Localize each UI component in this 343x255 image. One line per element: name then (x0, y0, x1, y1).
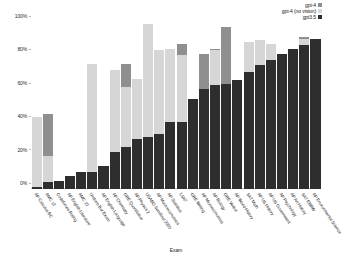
y-axis-tick-label: 60% (17, 80, 27, 86)
legend-swatch-gpt3-5 (318, 15, 322, 19)
x-axis-label-slot: AP Microeconomics (198, 190, 209, 252)
bar-segment-gpt-4 (177, 44, 187, 56)
y-axis-tick: 60% (17, 80, 31, 86)
bar-segment-gpt-4 (121, 64, 131, 87)
x-axis-label-slot: AMC 10 (76, 190, 87, 252)
bar-segment-gpt-4-no-vision (299, 39, 309, 46)
bar-segment-gpt-4-no-vision (32, 117, 42, 187)
bar-column[interactable] (177, 22, 187, 189)
x-axis-label-slot: SAT Math (243, 190, 254, 252)
y-axis-tick: 80% (17, 46, 31, 52)
x-axis-label-slot: AP US History (254, 190, 265, 252)
bar-segment-gpt3-5 (32, 187, 42, 189)
bar-segment-gpt3-5 (288, 49, 298, 189)
bar-column[interactable] (143, 22, 153, 189)
legend-entry-gpt3-5[interactable]: gpt3.5 (303, 14, 322, 20)
x-axis-label-slot: SAT EBRW (299, 190, 310, 252)
bar-segment-gpt-4-no-vision (43, 156, 53, 183)
bar-segment-gpt3-5 (143, 137, 153, 189)
bar-segment-gpt-4-no-vision (143, 24, 153, 138)
bar-segment-gpt3-5 (54, 181, 64, 189)
x-axis-label-slot: Uniform Bar Exam (87, 190, 98, 252)
bar-segment-gpt-4-no-vision (255, 40, 265, 65)
x-axis-label-slot: AP Psychology (276, 190, 287, 252)
bar-segment-gpt-4-no-vision (132, 79, 142, 139)
bar-segment-gpt3-5 (43, 182, 53, 189)
bar-segment-gpt3-5 (310, 39, 320, 189)
bar-segment-gpt3-5 (98, 166, 108, 189)
bar-segment-gpt-4-no-vision (165, 49, 175, 122)
x-axis-label-slot: GRE Writing (187, 190, 198, 252)
bar-column[interactable] (255, 22, 265, 189)
x-axis-label-slot: AP Calculus BC (31, 190, 42, 252)
x-axis-label: AP Environmental Science (312, 192, 343, 235)
bar-segment-gpt3-5 (110, 152, 120, 189)
bar-segment-gpt-4-no-vision (87, 64, 97, 173)
bar-segment-gpt3-5 (165, 122, 175, 189)
bar-segment-gpt-4-no-vision (110, 70, 120, 152)
x-axis-label-slot: AP Biology (210, 190, 221, 252)
bar-column[interactable] (121, 22, 131, 189)
legend-swatch-gpt-4-no-vision (318, 9, 322, 13)
y-axis-tick-label: 0% (20, 180, 27, 186)
bar-segment-gpt3-5 (65, 176, 75, 189)
bar-column[interactable] (132, 22, 142, 189)
bar-segment-gpt-4 (43, 114, 53, 156)
bar-column[interactable] (76, 22, 86, 189)
bar-column[interactable] (199, 22, 209, 189)
x-axis-label-slot: AMC 12 (42, 190, 53, 252)
y-axis-tick: 100% (15, 13, 31, 19)
bar-segment-gpt3-5 (154, 134, 164, 189)
bar-column[interactable] (288, 22, 298, 189)
x-axis-label-slot: AP Art History (288, 190, 299, 252)
bar-column[interactable] (154, 22, 164, 189)
bar-segment-gpt3-5 (188, 99, 198, 189)
bar-segment-gpt-4-no-vision (154, 50, 164, 134)
x-axis-label-slot: GRE Quantitative (120, 190, 131, 252)
bar-segment-gpt-4-no-vision (266, 44, 276, 61)
bar-column[interactable] (32, 22, 42, 189)
bar-segment-gpt-4 (199, 54, 209, 89)
bar-column[interactable] (232, 22, 242, 189)
bar-segment-gpt-4-no-vision (244, 42, 254, 72)
bar-segment-gpt3-5 (221, 84, 231, 189)
bar-column[interactable] (310, 22, 320, 189)
x-axis-label-slot: AP English Language (98, 190, 109, 252)
x-axis-label-slot: Codeforces Rating (53, 190, 64, 252)
bar-column[interactable] (266, 22, 276, 189)
y-axis-tick-mark (29, 16, 31, 17)
x-axis-labels: AP Calculus BCAMC 12Codeforces RatingAP … (31, 190, 321, 252)
bar-segment-gpt3-5 (121, 147, 131, 189)
bar-column[interactable] (188, 22, 198, 189)
bar-segment-gpt3-5 (244, 72, 254, 189)
bar-segment-gpt3-5 (132, 139, 142, 189)
bar-column[interactable] (221, 22, 231, 189)
bar-column[interactable] (299, 22, 309, 189)
bar-column[interactable] (87, 22, 97, 189)
bar-column[interactable] (110, 22, 120, 189)
bar-column[interactable] (43, 22, 53, 189)
x-axis-label-slot: AP US Government (265, 190, 276, 252)
x-axis-label-slot: AP World History (232, 190, 243, 252)
x-axis-label-slot: AP English Literature (64, 190, 75, 252)
y-axis-tick: 20% (17, 147, 31, 153)
x-axis-title: Exam (31, 247, 321, 253)
bar-column[interactable] (65, 22, 75, 189)
legend-label-gpt3-5: gpt3.5 (303, 14, 316, 20)
bar-column[interactable] (54, 22, 64, 189)
bar-group (31, 22, 321, 189)
x-axis-label-slot: AP Physics 2 (131, 190, 142, 252)
bar-column[interactable] (98, 22, 108, 189)
bar-segment-gpt3-5 (76, 172, 86, 189)
bar-segment-gpt3-5 (210, 85, 220, 189)
y-axis-tick-label: 40% (17, 113, 27, 119)
x-axis-label-slot: LSAT (176, 190, 187, 252)
bar-segment-gpt3-5 (199, 89, 209, 189)
bar-column[interactable] (277, 22, 287, 189)
bar-column[interactable] (244, 22, 254, 189)
bar-column[interactable] (210, 22, 220, 189)
bar-segment-gpt3-5 (266, 60, 276, 189)
y-axis-tick-label: 80% (17, 46, 27, 52)
bar-column[interactable] (165, 22, 175, 189)
